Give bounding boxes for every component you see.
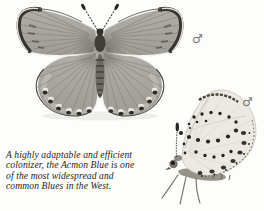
ventral-head [165,155,182,170]
caption-text: A highly adaptable and efficient coloniz… [6,150,158,191]
ventral-antenna [176,132,177,157]
male-symbol-ventral: ♂ [242,96,253,108]
ventral-legs [162,175,200,204]
male-symbol-dorsal: ♂ [192,33,203,45]
dorsal-butterfly-figure [17,3,183,120]
caption-line: common Blues in the West. [6,181,158,191]
ventral-antenna-club [176,122,179,131]
field-guide-page: ♂ ♂ A highly adaptable and efficient col… [0,0,264,211]
